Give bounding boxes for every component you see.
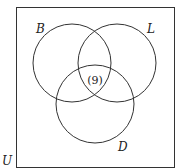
center-region-value: (9) bbox=[87, 74, 103, 87]
venn-diagram: B L D (9) U bbox=[0, 0, 176, 168]
set-d-label: D bbox=[117, 140, 128, 154]
set-b-label: B bbox=[35, 22, 45, 36]
set-l-label: L bbox=[146, 22, 155, 36]
universe-label: U bbox=[2, 154, 13, 168]
set-l-circle bbox=[78, 24, 156, 102]
